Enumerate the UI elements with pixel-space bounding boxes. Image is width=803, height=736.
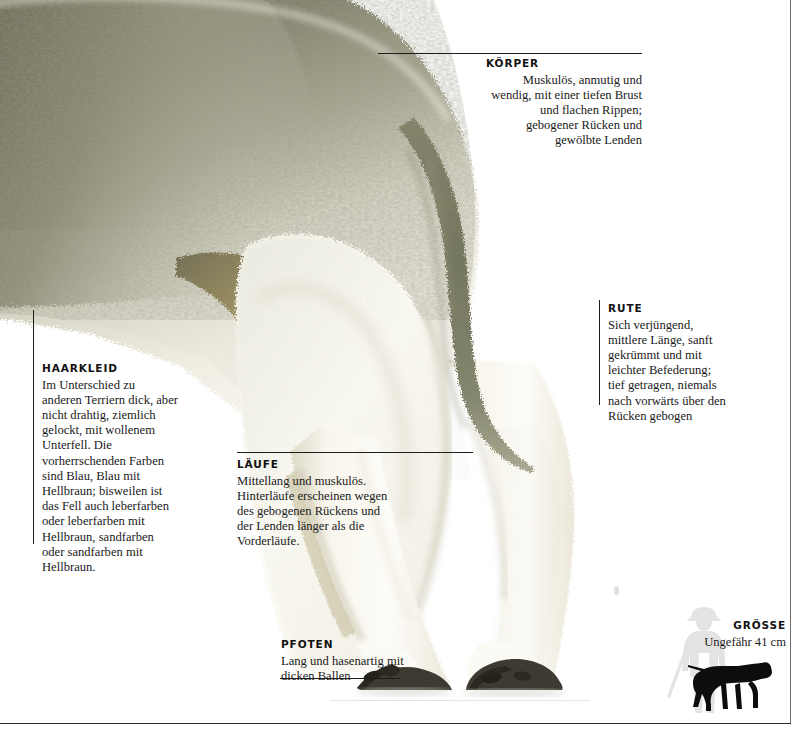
laeufe-leader-line bbox=[237, 452, 473, 453]
callout-laeufe-heading: LÄUFE bbox=[237, 459, 397, 471]
dog-silhouette-icon bbox=[688, 662, 772, 711]
callout-koerper: KÖRPER Muskulös, anmutig und wendig, mit… bbox=[486, 58, 642, 149]
page-border-right bbox=[790, 0, 791, 724]
page-root: KÖRPER Muskulös, anmutig und wendig, mit… bbox=[0, 0, 803, 736]
callout-groesse: GRÖSSE Ungefähr 41 cm bbox=[690, 620, 786, 650]
callout-laeufe: LÄUFE Mittellang und muskulös. Hinterläu… bbox=[237, 459, 397, 550]
callout-rute: RUTE Sich verjüngend, mittlere Länge, sa… bbox=[608, 303, 726, 424]
callout-rute-body: Sich verjüngend, mittlere Länge, sanft g… bbox=[608, 318, 726, 424]
rute-leader-line bbox=[599, 300, 600, 405]
photo-speck bbox=[614, 586, 619, 595]
callout-laeufe-body: Mittellang und muskulös. Hinterläufe ers… bbox=[237, 474, 397, 550]
callout-pfoten-heading: PFOTEN bbox=[281, 639, 411, 651]
koerper-leader-line bbox=[378, 53, 642, 54]
page-border-bottom bbox=[0, 723, 791, 724]
callout-koerper-heading: KÖRPER bbox=[486, 58, 642, 70]
callout-haarkleid-heading: HAARKLEID bbox=[42, 363, 178, 375]
callout-haarkleid-body: Im Unterschied zu anderen Terriern dick,… bbox=[42, 378, 178, 576]
callout-rute-heading: RUTE bbox=[608, 303, 726, 315]
callout-pfoten-body: Lang und hasenartig mit dicken Ballen bbox=[281, 654, 411, 684]
haarkleid-leader-line bbox=[33, 310, 34, 544]
callout-koerper-body: Muskulös, anmutig und wendig, mit einer … bbox=[486, 73, 642, 149]
callout-groesse-heading: GRÖSSE bbox=[690, 620, 786, 632]
callout-haarkleid: HAARKLEID Im Unterschied zu anderen Terr… bbox=[42, 363, 178, 575]
callout-groesse-body: Ungefähr 41 cm bbox=[690, 635, 786, 650]
pfoten-leader-line bbox=[280, 678, 400, 679]
